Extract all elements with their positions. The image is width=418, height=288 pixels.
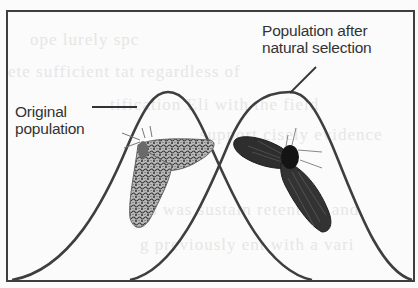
after-selection-label: Population after natural selection xyxy=(262,22,371,56)
original-label-line2: population xyxy=(15,120,85,137)
after-label-line1: Population after xyxy=(262,22,371,39)
after-leader-line xyxy=(290,67,316,93)
original-label-line1: Original xyxy=(15,103,85,120)
dark-melanic-moth xyxy=(234,128,331,232)
natural-selection-diagram: ope lurely spc ete sufficient tat regard… xyxy=(0,0,418,288)
after-label-line2: natural selection xyxy=(262,39,371,56)
original-population-label: Original population xyxy=(15,103,85,137)
light-peppered-moth xyxy=(122,126,214,227)
